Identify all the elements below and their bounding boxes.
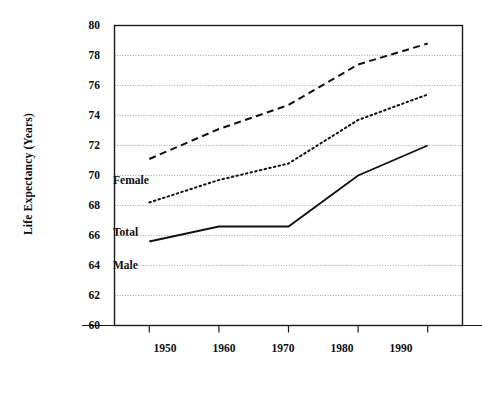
chart-container: Life Expectancy (Years) 80 78 76 74 72 7… bbox=[0, 0, 482, 393]
series-line-total bbox=[149, 95, 427, 203]
series-line-female bbox=[149, 44, 427, 160]
x-axis-ticks bbox=[82, 326, 482, 333]
series-line-male bbox=[149, 146, 427, 242]
gridlines bbox=[115, 56, 463, 296]
series-lines bbox=[149, 44, 427, 242]
plot-svg bbox=[0, 0, 482, 393]
